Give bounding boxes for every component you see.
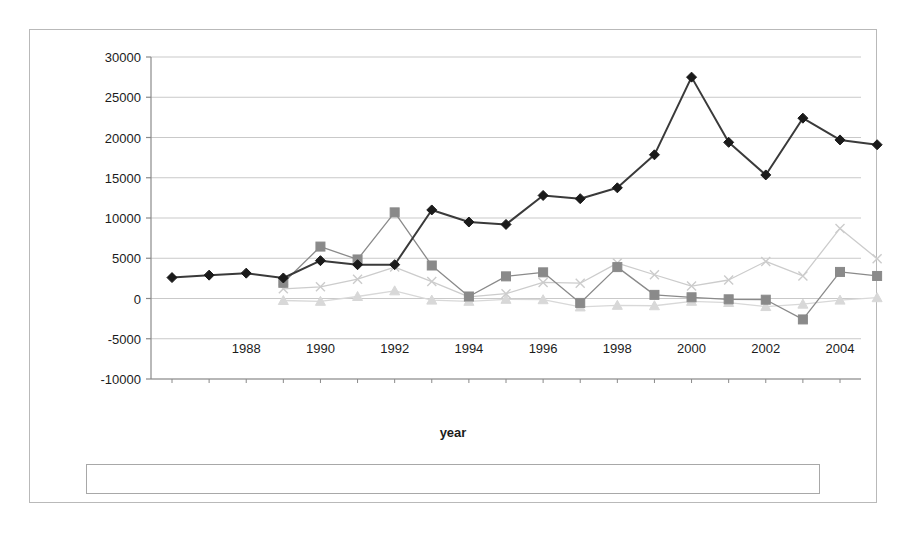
data-marker-square [873, 271, 882, 280]
x-tick-label: 1998 [603, 341, 632, 356]
data-marker-triangle [872, 293, 882, 302]
data-marker-cross [798, 271, 807, 280]
data-marker-square [427, 261, 436, 270]
x-axis-title: year [440, 425, 467, 440]
y-tick-label: 5000 [112, 251, 141, 266]
legend-border [86, 464, 820, 494]
data-marker-diamond [687, 72, 697, 82]
data-marker-square [650, 290, 659, 299]
data-marker-square [761, 295, 770, 304]
y-tick-label: 25000 [105, 90, 141, 105]
data-marker-diamond [798, 113, 808, 123]
data-series-layer [167, 72, 882, 324]
data-marker-cross [873, 254, 882, 263]
data-marker-diamond [575, 194, 585, 204]
y-axis-tick-labels: 300002500020000150001000050000-5000-1000… [101, 50, 151, 387]
y-tick-label: 10000 [105, 211, 141, 226]
series-line [283, 228, 877, 296]
y-tick-label: -5000 [108, 332, 141, 347]
data-marker-cross [427, 277, 436, 286]
data-marker-square [687, 293, 696, 302]
y-tick-label: 15000 [105, 171, 141, 186]
data-marker-square [576, 298, 585, 307]
data-marker-diamond [872, 140, 882, 150]
x-tick-label: 1990 [306, 341, 335, 356]
data-marker-square [390, 208, 399, 217]
x-axis-tick-labels: 198819901992199419961998200020022004 [172, 341, 854, 383]
x-tick-label: 1996 [529, 341, 558, 356]
data-marker-square [539, 268, 548, 277]
gridlines [151, 57, 861, 379]
x-tick-label: 1994 [454, 341, 483, 356]
data-marker-triangle [390, 286, 400, 295]
x-tick-label: 2002 [751, 341, 780, 356]
data-marker-square [464, 292, 473, 301]
data-marker-square [316, 242, 325, 251]
line-chart: 300002500020000150001000050000-5000-1000… [0, 0, 908, 534]
y-tick-label: 30000 [105, 50, 141, 65]
data-marker-diamond [835, 135, 845, 145]
series-nonbank-agents [279, 224, 882, 301]
data-marker-diamond [204, 270, 214, 280]
data-marker-diamond [315, 256, 325, 266]
data-marker-square [798, 315, 807, 324]
y-tick-label: 20000 [105, 131, 141, 146]
x-tick-label: 1988 [232, 341, 261, 356]
data-marker-diamond [241, 268, 251, 278]
x-tick-label: 1992 [380, 341, 409, 356]
x-tick-label: 2000 [677, 341, 706, 356]
y-tick-label: 0 [134, 292, 141, 307]
data-marker-square [502, 272, 511, 281]
y-tick-label: -10000 [101, 372, 141, 387]
data-marker-diamond [167, 273, 177, 283]
data-marker-square [836, 267, 845, 276]
data-marker-square [724, 295, 733, 304]
x-tick-label: 2004 [826, 341, 855, 356]
data-marker-square [613, 263, 622, 272]
data-marker-diamond [464, 217, 474, 227]
data-marker-cross [836, 224, 845, 233]
data-marker-cross [650, 270, 659, 279]
series-stock-exchange [279, 208, 882, 324]
